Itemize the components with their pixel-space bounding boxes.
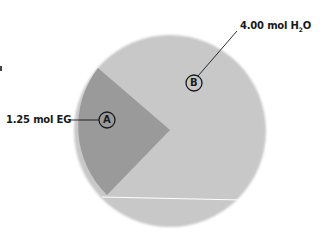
label-h2o-main: 4.00 mol H — [240, 20, 299, 31]
label-h2o: 4.00 mol H2O — [240, 20, 311, 33]
label-h2o-end: O — [303, 20, 311, 31]
marker-a-letter: A — [103, 114, 111, 125]
label-eg: 1.25 mol EG — [6, 114, 71, 125]
marker-b-letter: B — [190, 77, 197, 88]
